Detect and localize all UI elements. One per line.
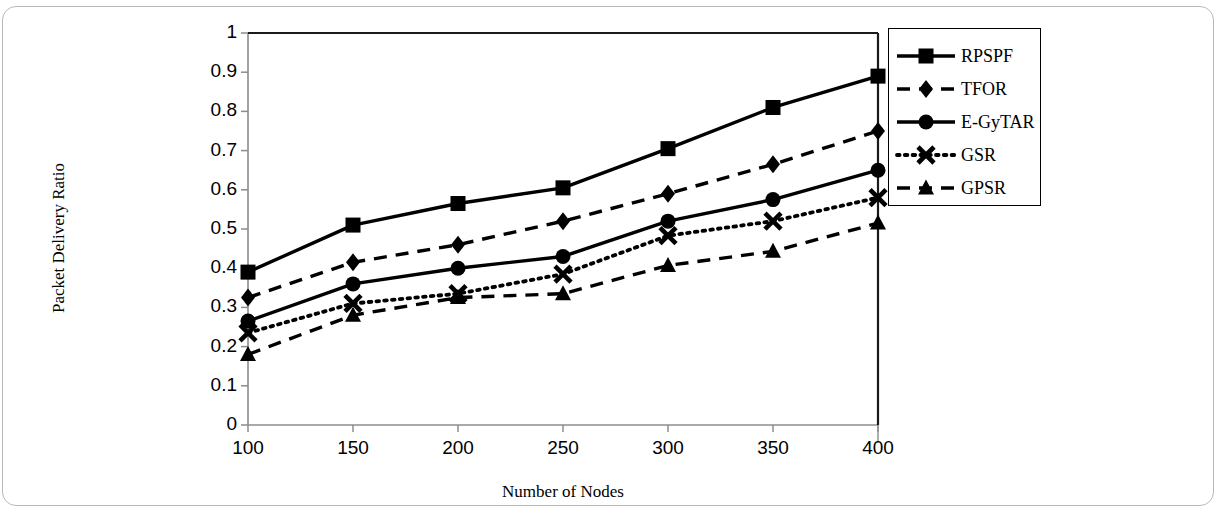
marker-circle: [451, 261, 466, 276]
x-axis-tick-label: 100: [218, 437, 278, 459]
x-axis-tick-label: 350: [743, 437, 803, 459]
marker-square: [871, 69, 886, 84]
y-axis-title: Packet Delivery Ratio: [49, 128, 69, 348]
marker-diamond: [766, 155, 780, 173]
x-axis-tick-label: 200: [428, 437, 488, 459]
legend-swatch-circle-icon: [895, 111, 957, 133]
marker-square: [766, 100, 781, 115]
marker-diamond: [451, 236, 465, 254]
y-axis-tick-label: 0.8: [193, 99, 237, 121]
marker-circle: [556, 249, 571, 264]
marker-circle: [766, 192, 781, 207]
legend-box: RPSPFTFORE-GyTARGSRGPSR: [888, 28, 1041, 206]
marker-diamond: [241, 289, 255, 307]
x-axis-tick-label: 300: [638, 437, 698, 459]
legend-label: GPSR: [961, 178, 1006, 199]
x-axis-tick-label: 250: [533, 437, 593, 459]
marker-diamond: [556, 212, 570, 230]
marker-triangle: [660, 257, 676, 272]
x-axis-title: Number of Nodes: [248, 482, 878, 502]
marker-circle: [871, 163, 886, 178]
marker-triangle: [870, 215, 886, 230]
marker-square: [346, 218, 361, 233]
marker-circle: [661, 214, 676, 229]
legend-swatch-cross-icon: [895, 144, 957, 166]
y-axis-tick-label: 1: [193, 21, 237, 43]
legend-item-tfor[interactable]: TFOR: [889, 72, 1042, 106]
y-axis-tick-label: 0.7: [193, 139, 237, 161]
marker-diamond: [661, 185, 675, 203]
x-axis-tick-label: 150: [323, 437, 383, 459]
marker-square: [241, 265, 256, 280]
marker-diamond: [346, 253, 360, 271]
legend-swatch-diamond-icon: [895, 78, 957, 100]
legend-swatch-square-icon: [895, 45, 957, 67]
legend-swatch-triangle-icon: [895, 177, 957, 199]
y-axis-tick-label: 0.4: [193, 256, 237, 278]
figure-root: Packet Delivery Ratio Number of Nodes 00…: [0, 0, 1222, 512]
legend-item-rpspf[interactable]: RPSPF: [889, 39, 1042, 73]
marker-triangle: [765, 243, 781, 258]
legend-label: RPSPF: [961, 46, 1013, 67]
y-axis-tick-label: 0.3: [193, 295, 237, 317]
marker-diamond: [871, 122, 885, 140]
marker-square: [451, 196, 466, 211]
y-axis-tick-label: 0.2: [193, 335, 237, 357]
legend-item-e-gytar[interactable]: E-GyTAR: [889, 105, 1042, 139]
marker-square: [556, 180, 571, 195]
legend-label: E-GyTAR: [961, 112, 1035, 133]
y-axis-tick-label: 0: [193, 413, 237, 435]
y-axis-tick-label: 0.6: [193, 178, 237, 200]
legend-label: TFOR: [961, 79, 1007, 100]
legend-item-gsr[interactable]: GSR: [889, 138, 1042, 172]
series-line-rpspf: [248, 76, 878, 272]
x-axis-tick-label: 400: [848, 437, 908, 459]
legend-label: GSR: [961, 145, 996, 166]
legend-item-gpsr[interactable]: GPSR: [889, 171, 1042, 205]
y-axis-tick-label: 0.9: [193, 60, 237, 82]
marker-square: [661, 141, 676, 156]
marker-circle: [346, 276, 361, 291]
y-axis-tick-label: 0.5: [193, 217, 237, 239]
y-axis-tick-label: 0.1: [193, 374, 237, 396]
